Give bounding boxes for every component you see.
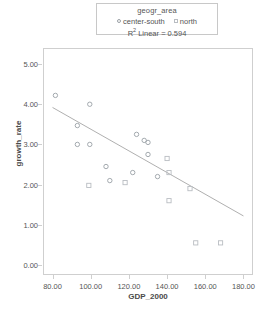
legend-title: geogr_area bbox=[97, 7, 217, 15]
data-point-center-south bbox=[88, 142, 92, 146]
data-point-north bbox=[165, 156, 169, 160]
data-point-center-south bbox=[108, 178, 112, 182]
legend-fit-suffix: Linear = 0.594 bbox=[136, 29, 186, 38]
circle-open-icon bbox=[117, 19, 121, 23]
x-axis-tick-mark bbox=[243, 275, 244, 279]
data-point-north bbox=[194, 241, 198, 245]
legend-key-label: north bbox=[180, 18, 197, 26]
data-point-center-south bbox=[88, 102, 92, 106]
legend-keys: center-south north bbox=[97, 18, 217, 26]
data-point-north bbox=[188, 187, 192, 191]
data-point-center-south bbox=[131, 170, 135, 174]
y-axis-tick-label: 5.00 bbox=[4, 60, 38, 69]
y-axis-tick-mark bbox=[38, 144, 42, 145]
x-axis-title: GDP_2000 bbox=[43, 292, 253, 301]
x-axis-tick-label: 100.00 bbox=[71, 282, 111, 291]
x-axis-tick-mark bbox=[53, 275, 54, 279]
y-axis-tick-label: 0.00 bbox=[4, 260, 38, 269]
regression-line bbox=[53, 107, 244, 215]
data-point-center-south bbox=[104, 164, 108, 168]
y-axis-tick-mark bbox=[38, 265, 42, 266]
y-axis-tick-mark bbox=[38, 225, 42, 226]
legend: geogr_area center-south north R2 Linear … bbox=[96, 3, 218, 35]
y-axis-title: growth_rate bbox=[14, 74, 23, 214]
legend-key-north: north bbox=[174, 18, 197, 26]
square-open-icon bbox=[174, 19, 178, 23]
x-axis-tick-mark bbox=[205, 275, 206, 279]
x-axis-tick-mark bbox=[129, 275, 130, 279]
y-axis-tick-mark bbox=[38, 185, 42, 186]
data-point-north bbox=[123, 180, 127, 184]
data-point-center-south bbox=[75, 123, 79, 127]
x-axis-tick-mark bbox=[167, 275, 168, 279]
x-axis-tick-label: 140.00 bbox=[147, 282, 187, 291]
data-point-north bbox=[218, 241, 222, 245]
x-axis-tick-label: 80.00 bbox=[33, 282, 73, 291]
y-axis-tick-label: 1.00 bbox=[4, 220, 38, 229]
y-axis-tick-mark bbox=[38, 104, 42, 105]
x-axis-tick-mark bbox=[91, 275, 92, 279]
data-point-center-south bbox=[146, 140, 150, 144]
data-point-north bbox=[87, 183, 91, 187]
legend-key-label: center-south bbox=[123, 18, 165, 26]
scatter-plot-figure: geogr_area center-south north R2 Linear … bbox=[0, 0, 265, 311]
plot-data-layer bbox=[43, 48, 253, 275]
x-axis-tick-label: 120.00 bbox=[109, 282, 149, 291]
legend-fit-label: R2 Linear = 0.594 bbox=[97, 28, 217, 37]
legend-key-center-south: center-south bbox=[117, 18, 165, 26]
data-point-north bbox=[167, 199, 171, 203]
data-point-center-south bbox=[134, 132, 138, 136]
data-point-center-south bbox=[155, 174, 159, 178]
x-axis-tick-label: 160.00 bbox=[185, 282, 225, 291]
data-point-center-south bbox=[146, 152, 150, 156]
data-point-center-south bbox=[75, 142, 79, 146]
data-point-center-south bbox=[53, 93, 57, 97]
x-axis-tick-label: 180.00 bbox=[223, 282, 263, 291]
y-axis-tick-mark bbox=[38, 64, 42, 65]
